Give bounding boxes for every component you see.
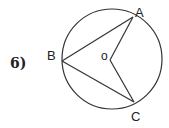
label-C: C [131,109,140,124]
segment-BC [62,61,134,102]
label-A: A [135,5,144,20]
label-B: B [47,48,56,63]
circle [62,9,162,109]
geometry-diagram: 6) A B o C [0,0,169,128]
segment-BA [62,17,133,61]
label-O: o [101,49,108,63]
problem-number: 6) [10,55,26,71]
